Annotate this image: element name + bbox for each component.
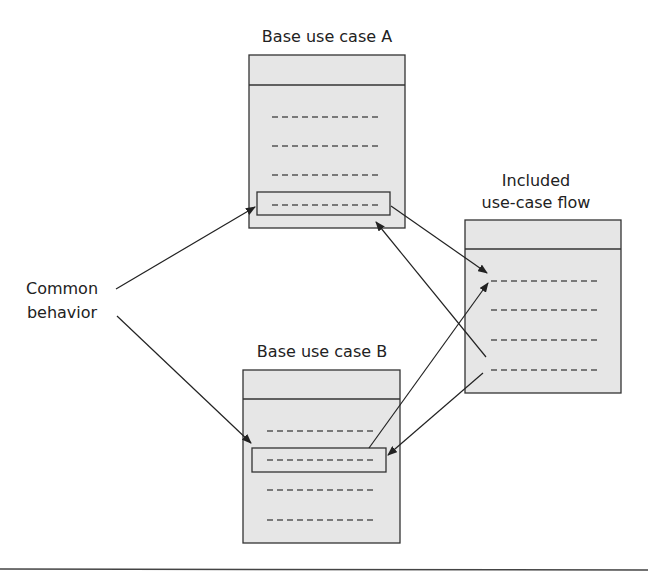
arrow-common-to-b [117,316,251,443]
included-use-case-flow: Included use-case flow [465,171,621,393]
include-relationship-diagram: Base use case A Included use-case flow B… [0,0,648,580]
base-use-case-b: Base use case B [243,342,400,543]
common-behavior-label: Common behavior [26,279,98,322]
included-title-line2: use-case flow [482,193,591,212]
svg-text:Common: Common [26,279,98,298]
bottom-rule [0,569,648,570]
arrow-included-to-b [388,373,483,455]
base-a-title: Base use case A [262,27,392,46]
base-use-case-a: Base use case A [249,27,405,228]
svg-text:behavior: behavior [27,303,98,322]
base-b-title: Base use case B [257,342,387,361]
included-title-line1: Included [502,171,570,190]
arrow-common-to-a [116,207,255,289]
